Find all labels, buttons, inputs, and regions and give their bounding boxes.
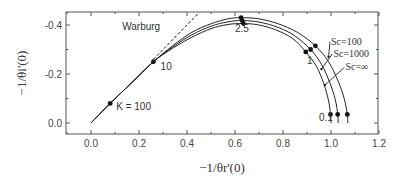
data-point-marker: [108, 101, 113, 106]
y-tick-label: 0.0: [48, 118, 62, 129]
series-label-leader: [321, 54, 332, 69]
x-tick-label: 0.4: [180, 138, 194, 149]
series-label: Sc=1000: [333, 48, 369, 59]
data-point-marker: [313, 43, 318, 48]
annotations-group: WarburgK = 100102.510.1Sc=100Sc=1000Sc=∞: [116, 21, 369, 123]
data-point-marker: [335, 112, 340, 117]
x-tick-label: 0.6: [228, 138, 242, 149]
series-label: Sc=100: [331, 36, 362, 47]
x-axis: 0.00.20.40.60.81.01.2: [67, 12, 386, 149]
data-point-marker: [151, 59, 156, 64]
annotation-label: Warburg: [122, 21, 160, 32]
series-label-leader: [325, 67, 344, 85]
x-tick-label: 0.8: [276, 138, 290, 149]
series-label-leader: [329, 42, 330, 57]
annotation-label: 0.1: [319, 112, 333, 123]
series-label: Sc=∞: [345, 61, 368, 72]
x-tick-label: 1.2: [372, 138, 386, 149]
data-point-marker: [345, 112, 350, 117]
annotation-label: 2.5: [235, 23, 249, 34]
y-tick-label: -0.4: [45, 20, 63, 31]
y-tick-label: -0.2: [45, 69, 63, 80]
series-label-arrowhead: [324, 84, 326, 86]
data-point-marker: [308, 47, 313, 52]
data-point-marker: [303, 50, 308, 55]
annotation-label: K = 100: [116, 101, 151, 112]
annotation-label: 10: [161, 61, 173, 72]
annotation-label: 1: [307, 55, 313, 66]
series-label-arrowhead: [320, 68, 322, 70]
x-tick-label: 0.2: [132, 138, 146, 149]
x-tick-label: 1.0: [324, 138, 338, 149]
x-axis-title: −1/θr'(0): [199, 160, 245, 175]
y-axis-title: −1/θi'(0): [14, 51, 29, 96]
chart: 0.00.20.40.60.81.01.2 0.0-0.2-0.4 Warbur…: [0, 0, 403, 186]
series-line-warburg: [153, 13, 199, 60]
x-tick-label: 0.0: [84, 138, 98, 149]
